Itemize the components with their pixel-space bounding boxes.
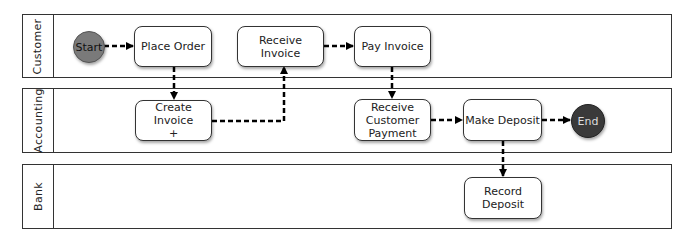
node-receive-invoice[interactable]: Receive Invoice (237, 26, 324, 67)
node-label: Receive Customer Payment (366, 101, 419, 140)
node-label: Record Deposit (482, 185, 524, 211)
end-node[interactable]: End (571, 104, 605, 138)
lane-title: Bank (32, 182, 45, 211)
end-label: End (578, 115, 599, 128)
start-node[interactable]: Start (73, 31, 105, 63)
start-label: Start (76, 41, 103, 54)
node-label: Receive Invoice (238, 34, 323, 60)
node-create-invoice[interactable]: Create Invoice + (135, 100, 212, 141)
lane-bank: Bank (22, 164, 672, 229)
lane-label-bank: Bank (23, 165, 54, 228)
node-label: Create Invoice + (136, 101, 211, 140)
lane-title: Accounting (32, 88, 45, 152)
node-label: Pay Invoice (361, 40, 423, 53)
lane-label-customer: Customer (23, 15, 54, 77)
node-label: Place Order (141, 40, 205, 53)
node-label: Make Deposit (465, 114, 540, 127)
node-place-order[interactable]: Place Order (134, 26, 212, 67)
node-record-deposit[interactable]: Record Deposit (464, 177, 542, 219)
lane-label-accounting: Accounting (23, 89, 54, 152)
node-pay-invoice[interactable]: Pay Invoice (354, 26, 431, 67)
node-make-deposit[interactable]: Make Deposit (463, 99, 542, 141)
node-receive-customer-payment[interactable]: Receive Customer Payment (354, 99, 431, 141)
lane-title: Customer (32, 18, 45, 74)
lane-customer: Customer (22, 14, 672, 78)
